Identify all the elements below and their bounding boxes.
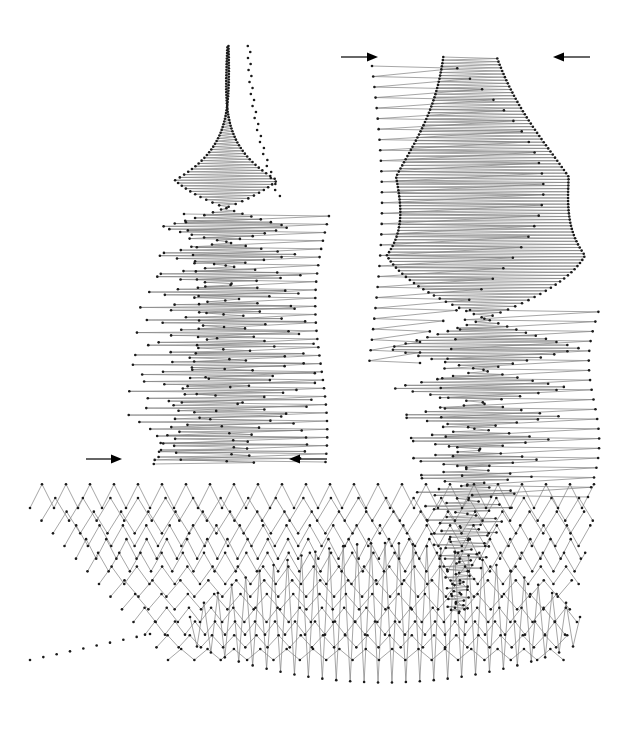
sample-marker [237,565,240,568]
sample-marker [379,532,382,535]
sample-marker [373,317,376,320]
sample-marker [446,587,449,590]
sample-marker [563,169,566,172]
sample-marker [179,459,182,462]
sample-marker [197,162,200,165]
sample-marker [520,107,523,110]
sample-marker [569,538,572,541]
sample-marker [222,646,225,649]
sample-marker [554,283,557,286]
sample-marker [159,254,162,257]
sample-marker [274,545,277,548]
sample-marker [580,249,583,252]
sample-marker [539,293,542,296]
sample-marker [416,136,419,139]
sample-marker [225,71,228,74]
sample-marker [155,646,158,649]
sample-marker [447,510,450,513]
sample-marker [463,608,466,611]
sample-marker [565,607,568,610]
sample-marker [501,595,504,598]
sample-marker [279,277,282,280]
sample-marker [203,545,206,548]
sample-marker [511,362,514,365]
sample-marker [488,671,491,674]
sample-marker [122,524,125,527]
sample-marker [461,474,464,477]
sample-marker [135,557,138,560]
sample-marker [397,189,400,192]
sample-marker [398,542,401,545]
sample-marker [166,538,169,541]
sample-marker [501,70,504,73]
sample-marker [283,355,286,358]
sample-marker [263,259,266,262]
sample-marker [279,608,282,611]
sample-marker [441,65,444,68]
sample-marker [98,524,101,527]
sample-marker [566,524,569,527]
sample-marker [452,455,455,458]
sample-marker [145,407,148,410]
sample-marker [253,99,256,102]
sample-marker [498,607,501,610]
sample-marker [123,579,126,582]
sample-marker [261,519,264,522]
sample-marker [314,313,317,316]
sample-marker [557,415,560,418]
sample-marker [272,564,275,567]
sample-marker [206,301,209,304]
sample-marker [556,595,559,598]
sample-marker [258,310,261,313]
sample-marker [229,284,232,287]
sample-marker [274,189,277,192]
sample-marker [474,620,477,623]
sample-marker [193,595,196,598]
sample-marker [522,634,525,637]
sample-marker [468,538,471,541]
sample-marker [224,115,227,118]
sample-marker [520,409,523,412]
sample-marker [565,172,568,175]
sample-marker [514,565,517,568]
sample-marker [377,483,380,486]
sample-marker [115,557,118,560]
sample-marker [495,531,498,534]
sample-marker [157,545,160,548]
sample-marker [426,336,429,339]
sample-marker [445,300,448,303]
sample-marker [221,595,224,598]
sample-marker [488,465,491,468]
sample-marker [186,385,189,388]
sample-marker [209,483,212,486]
sample-marker [494,517,497,520]
sample-marker [173,222,176,225]
sample-marker [356,543,359,546]
sample-marker [425,118,428,121]
sample-marker [284,633,287,636]
sample-marker [573,268,576,271]
sample-marker [565,565,568,568]
sample-marker [263,408,266,411]
sample-marker [319,362,322,365]
sample-marker [497,365,500,368]
sample-marker [377,646,380,649]
sample-marker [189,634,192,637]
sample-marker [173,445,176,448]
sample-marker [476,593,479,596]
sample-marker [324,532,327,535]
sample-marker [170,309,173,312]
sample-marker [185,316,188,319]
sample-marker [325,659,328,662]
sample-marker [465,400,468,403]
sample-marker [444,576,447,579]
sample-marker [250,93,253,96]
sample-marker [147,510,150,513]
sample-marker [314,550,317,553]
sample-marker [483,542,486,545]
sample-marker [386,254,389,257]
sample-marker [351,552,354,555]
sample-marker [277,557,280,560]
sample-marker [445,595,448,598]
sample-marker [235,579,238,582]
